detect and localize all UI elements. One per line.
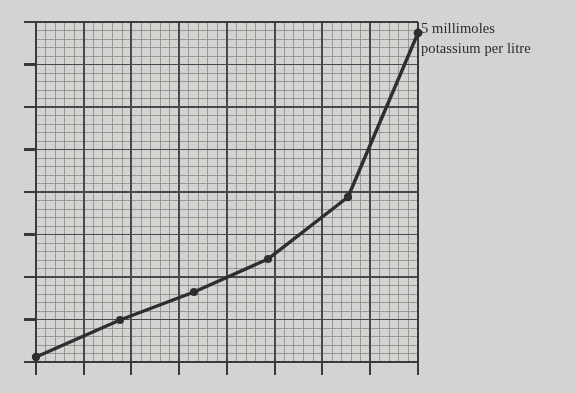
y-axis-ticks bbox=[24, 22, 36, 362]
line-chart-figure bbox=[0, 0, 575, 393]
annotation-line-2: potassium per litre bbox=[421, 39, 573, 59]
chart-annotation: 5 millimoles potassium per litre bbox=[421, 19, 573, 58]
data-point bbox=[344, 193, 352, 201]
data-point bbox=[32, 353, 40, 361]
x-axis-ticks bbox=[36, 362, 418, 375]
data-point bbox=[264, 255, 272, 263]
annotation-line-1: 5 millimoles bbox=[421, 19, 573, 39]
data-point bbox=[190, 288, 198, 296]
data-point bbox=[116, 316, 124, 324]
